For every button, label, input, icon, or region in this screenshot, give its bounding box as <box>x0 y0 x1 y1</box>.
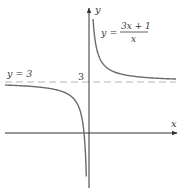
x-axis-label: x <box>171 118 177 129</box>
rational-function-graph: y x 3 y = 3 y = 3x + 1 x <box>0 0 180 192</box>
y-axis-label: y <box>94 4 101 15</box>
equation-lhs: y = <box>100 27 117 38</box>
equation-denominator: x <box>131 34 136 44</box>
equation-numerator: 3x + 1 <box>121 21 151 31</box>
curve-left-branch <box>5 85 86 176</box>
function-equation-label: y = 3x + 1 x <box>100 21 151 44</box>
asymptote-label: y = 3 <box>6 68 32 79</box>
y-tick-label-3: 3 <box>78 71 84 82</box>
